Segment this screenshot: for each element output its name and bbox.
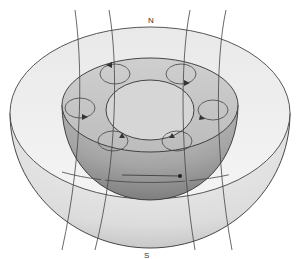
earth-core-diagram: N S <box>0 0 299 259</box>
north-label: N <box>148 16 154 25</box>
core-equator-arrow-head <box>178 174 182 178</box>
south-label: S <box>144 251 149 259</box>
